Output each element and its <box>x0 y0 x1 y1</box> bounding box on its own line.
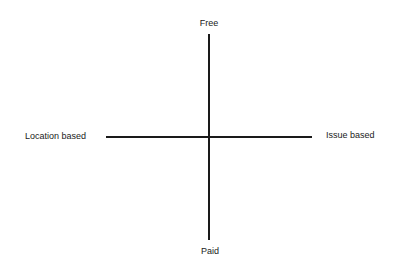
axis-label-free: Free <box>200 18 219 28</box>
axis-label-paid: Paid <box>201 246 219 256</box>
axis-label-location-based: Location based <box>25 131 86 141</box>
vertical-axis-line <box>208 34 210 240</box>
axis-label-issue-based: Issue based <box>326 130 375 140</box>
